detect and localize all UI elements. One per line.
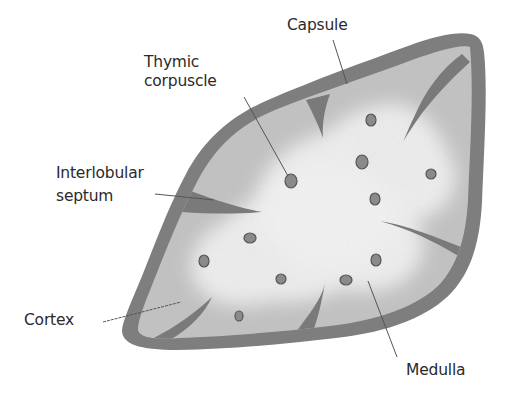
corpuscle: [235, 311, 243, 321]
corpuscle: [285, 174, 297, 188]
thymus-diagram: Capsule Thymic corpuscle Interlobular se…: [0, 0, 516, 400]
corpuscle: [276, 274, 286, 284]
interlobular-septum-label-line2: septum: [56, 187, 113, 205]
corpuscle: [370, 193, 380, 205]
cortex-label: Cortex: [24, 311, 74, 329]
capsule-label: Capsule: [287, 16, 348, 34]
interlobular-septum-label-line1: Interlobular: [56, 164, 144, 182]
thymic-corpuscle-label-line2: corpuscle: [144, 72, 217, 90]
corpuscle: [356, 155, 368, 169]
corpuscle: [244, 233, 256, 243]
corpuscle: [426, 169, 436, 179]
medulla-label: Medulla: [406, 361, 465, 379]
corpuscle: [340, 275, 352, 285]
thymic-corpuscle-label-line1: Thymic: [143, 53, 199, 71]
corpuscle: [366, 114, 376, 126]
corpuscle: [199, 255, 209, 267]
corpuscle: [371, 254, 381, 266]
